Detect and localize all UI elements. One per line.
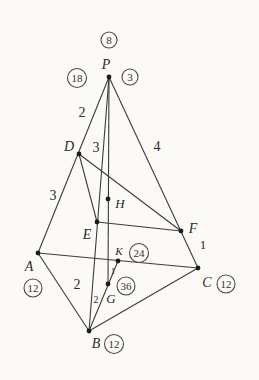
vertex-dot-D [77, 152, 82, 157]
circled-number-G: 36 [121, 280, 133, 292]
vertex-label-E: E [82, 227, 92, 242]
section-EF [97, 222, 181, 231]
vertex-label-G: G [106, 291, 116, 306]
vertex-label-C: C [202, 275, 212, 290]
vertex-dot-B [87, 329, 92, 334]
edge-PA [38, 77, 109, 253]
vertex-label-F: F [188, 221, 198, 236]
edge-label-DA: 3 [50, 188, 57, 203]
vertex-dot-P [107, 75, 112, 80]
vertex-label-P: P [101, 57, 111, 72]
vertex-dot-C [196, 266, 201, 271]
circled-number-P-left: 18 [72, 72, 84, 84]
circled-number-A: 12 [28, 282, 39, 294]
circled-number-C: 12 [221, 278, 232, 290]
vertex-dot-K [116, 259, 121, 264]
circled-number-P-right: 3 [127, 71, 133, 83]
edge-label-PF: 4 [154, 139, 161, 154]
figure-svg: PDHEFAKCGB2343121281832436121212 [0, 0, 259, 380]
vertex-label-B: B [92, 336, 101, 351]
geometry-figure: PDHEFAKCGB2343121281832436121212 [0, 0, 259, 380]
edge-AB [38, 253, 89, 331]
edge-label-EB: 2 [74, 277, 81, 292]
vertex-label-K: K [114, 245, 123, 257]
vertex-dot-G [106, 282, 111, 287]
edge-label-PE: 3 [93, 140, 100, 155]
circled-number-K: 24 [134, 247, 146, 259]
edge-label-FC: 1 [200, 237, 207, 252]
edge-label-PD: 2 [79, 105, 86, 120]
circled-number-P-top: 8 [106, 34, 112, 46]
circled-number-B: 12 [109, 338, 120, 350]
vertex-label-D: D [63, 139, 74, 154]
vertex-dot-F [179, 229, 184, 234]
section-DF [79, 154, 181, 231]
vertex-dot-A [36, 251, 41, 256]
edge-label-GK: 1 [111, 266, 116, 276]
vertex-label-H: H [114, 196, 125, 211]
section-DE [79, 154, 97, 222]
cevian-PG [108, 77, 109, 284]
vertex-label-A: A [24, 259, 34, 274]
edge-PC [109, 77, 198, 268]
vertex-dot-H [106, 197, 111, 202]
edge-label-GB: 2 [94, 294, 99, 305]
vertex-dot-E [95, 220, 100, 225]
